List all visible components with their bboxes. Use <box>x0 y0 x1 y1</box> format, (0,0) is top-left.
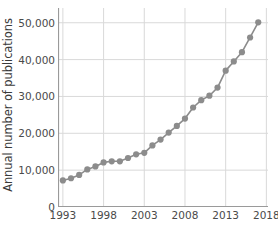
publications-line-chart: Annual number of publications 010,00020,… <box>0 0 278 237</box>
data-point <box>76 172 82 178</box>
data-point <box>231 58 237 64</box>
data-point <box>125 155 131 161</box>
y-axis-tick-label: 20,000 <box>14 127 55 139</box>
y-axis-tick-label: 30,000 <box>14 90 55 102</box>
x-axis-tick-label: 2008 <box>172 209 199 221</box>
x-axis-tick-label: 2003 <box>131 209 158 221</box>
y-axis-tick-label: 40,000 <box>14 54 55 66</box>
data-point <box>166 129 172 135</box>
data-point <box>68 175 74 181</box>
data-point <box>190 104 196 110</box>
data-point <box>149 142 155 148</box>
data-point <box>117 158 123 164</box>
x-axis-tick-label: 1993 <box>50 209 77 221</box>
data-point <box>141 150 147 156</box>
x-gridlines <box>63 8 266 207</box>
x-axis-tick-label: 2013 <box>212 209 239 221</box>
axis-lines <box>59 8 269 207</box>
data-point <box>214 85 220 91</box>
data-point <box>100 159 106 165</box>
data-point <box>239 49 245 55</box>
series-line <box>63 22 258 180</box>
data-point <box>247 34 253 40</box>
data-point <box>182 115 188 121</box>
plot-area <box>58 8 268 207</box>
data-point <box>84 166 90 172</box>
y-gridlines <box>58 23 268 170</box>
data-point <box>255 19 261 25</box>
data-point <box>157 136 163 142</box>
data-point <box>60 177 66 183</box>
x-axis-tick-labels: 199319982003200820132018 <box>0 209 278 229</box>
y-axis-tick-labels: 010,00020,00030,00040,00050,000 <box>14 0 55 237</box>
plot-svg <box>58 8 268 207</box>
data-point <box>92 163 98 169</box>
x-axis-tick-label: 2018 <box>253 209 278 221</box>
y-axis-tick-label: 50,000 <box>14 17 55 29</box>
x-axis-tick-label: 1998 <box>90 209 117 221</box>
y-axis-title-text: Annual number of publications <box>1 18 15 192</box>
data-point <box>133 151 139 157</box>
data-point <box>198 97 204 103</box>
data-point <box>223 68 229 74</box>
data-point <box>174 123 180 129</box>
data-point <box>109 158 115 164</box>
y-axis-tick-label: 10,000 <box>14 164 55 176</box>
data-point <box>206 93 212 99</box>
series-markers <box>60 19 262 183</box>
